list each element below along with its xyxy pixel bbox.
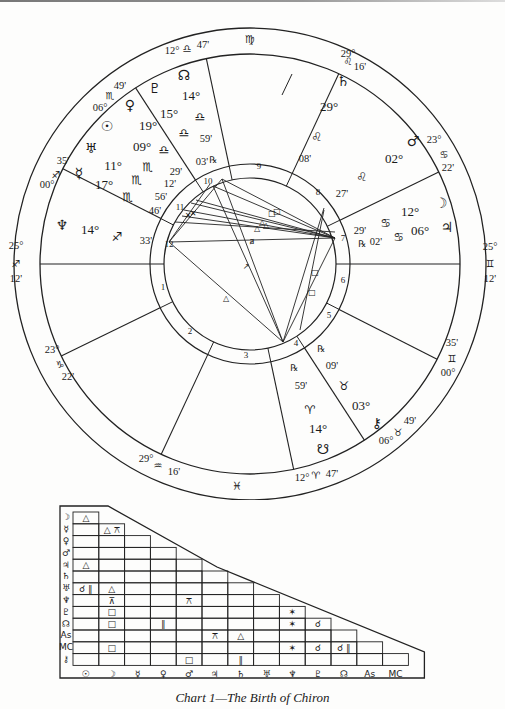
column-label-icon: ♆	[288, 669, 296, 679]
aspect-grid-cell	[176, 642, 202, 654]
aspect-grid-cell	[254, 595, 280, 607]
aspect-grid-cell	[150, 630, 176, 642]
aspect-grid-cell	[73, 547, 99, 559]
row-label-icon: ⚷	[63, 654, 70, 664]
aspect-grid-cell	[125, 583, 151, 595]
row-label-icon: ☽	[62, 512, 70, 522]
aspect-grid-cell	[202, 642, 228, 654]
aspect-symbol-icon: △	[237, 631, 244, 641]
aspect-grid-cell	[125, 595, 151, 607]
aspect-grid-cell	[125, 606, 151, 618]
aspect-symbol-icon: ✶	[289, 643, 297, 653]
row-label-icon: ♀	[63, 536, 70, 546]
aspect-grid-cell	[99, 654, 125, 666]
aspect-grid-cell	[254, 642, 280, 654]
aspect-grid-cell	[125, 547, 151, 559]
aspect-grid-cell	[73, 536, 99, 548]
column-label-icon: ♂	[185, 669, 193, 679]
row-label-icon: ♂	[62, 548, 70, 558]
column-label-icon: ♃	[211, 669, 219, 679]
aspect-grid-cell	[73, 618, 99, 630]
aspect-symbol-icon: ⚻	[212, 631, 218, 641]
aspect-grid-cell	[125, 630, 151, 642]
row-label-icon: MC	[59, 642, 73, 652]
aspect-grid-cell	[357, 642, 383, 654]
aspect-grid-cell	[254, 618, 280, 630]
aspect-grid-cell	[202, 654, 228, 666]
aspect-symbol-icon: ∥	[238, 655, 243, 665]
aspect-grid-cell	[99, 547, 125, 559]
aspect-grid-cell	[73, 642, 99, 654]
column-label-icon: ♅	[262, 669, 270, 679]
column-label-icon: ♇	[314, 669, 322, 679]
aspect-symbol-icon: □	[107, 619, 116, 629]
aspect-symbol-icon: □	[107, 607, 116, 617]
aspect-symbol-icon: ∥	[161, 619, 166, 629]
aspect-grid-cell	[254, 630, 280, 642]
aspect-grid-cell	[99, 559, 125, 571]
aspect-grid-cell	[228, 583, 254, 595]
aspect-grid-cell	[383, 654, 409, 666]
aspect-grid-cell	[150, 595, 176, 607]
row-label-icon: ♅	[62, 583, 70, 593]
aspect-grid-cell	[279, 630, 305, 642]
column-label-icon: ☿	[135, 669, 141, 679]
row-label-icon: ☿	[63, 524, 69, 534]
aspect-symbol-icon: △ ⚻	[104, 525, 120, 535]
aspect-symbol-icon: ✶	[289, 607, 297, 617]
aspect-grid-cell	[176, 618, 202, 630]
aspect-grid-cell	[150, 559, 176, 571]
aspect-grid-cell	[228, 606, 254, 618]
row-label-icon: ♃	[62, 560, 70, 570]
aspect-grid-cell	[125, 642, 151, 654]
aspect-grid-cell	[99, 571, 125, 583]
aspect-symbol-icon: ⊼	[108, 596, 115, 606]
column-label-icon: ☊	[340, 669, 348, 679]
column-label-icon: ♀	[160, 669, 167, 679]
aspect-grid-cell	[150, 547, 176, 559]
aspect-grid-cell	[202, 583, 228, 595]
aspect-symbol-icon: ☌	[315, 619, 321, 629]
aspect-symbol-icon: □	[107, 643, 116, 653]
aspect-grid-cell	[150, 583, 176, 595]
column-label-icon: As	[364, 669, 375, 679]
aspect-symbol-icon: ☌	[315, 643, 321, 653]
aspect-grid-cell	[254, 654, 280, 666]
aspect-grid-cell	[305, 654, 331, 666]
aspect-grid-cell	[73, 654, 99, 666]
aspect-grid-cell	[73, 630, 99, 642]
aspect-grid-cell	[73, 524, 99, 536]
aspect-grid-cell	[176, 559, 202, 571]
aspect-grid-cell	[125, 559, 151, 571]
aspect-grid-cell	[176, 583, 202, 595]
aspect-grid-cell	[150, 654, 176, 666]
aspect-symbol-icon: ✶	[289, 619, 297, 629]
aspect-grid-cell	[331, 630, 357, 642]
row-label-icon: ☊	[62, 619, 70, 629]
aspect-grid-cell	[150, 606, 176, 618]
aspect-grid-cell	[176, 571, 202, 583]
aspect-grid-cell	[125, 571, 151, 583]
aspect-symbol-icon: ☌ ∥	[337, 643, 350, 653]
aspect-symbol-icon: △	[82, 513, 89, 523]
aspect-grid-cell	[73, 595, 99, 607]
aspect-grid-cell	[125, 536, 151, 548]
row-label-icon: ♇	[62, 607, 70, 617]
aspect-grid-cell	[99, 630, 125, 642]
column-label-icon: ☽	[108, 669, 116, 679]
aspect-symbol-icon: □	[185, 655, 194, 665]
aspect-grid-cell	[202, 595, 228, 607]
aspect-grid: ☽☿♀♂♃♄♅♆♇☊AsMC⚷☉☽☿♀♂♃♄♅♆♇☊AsMC△△ ⚻△☌ ∥△⊼…	[0, 0, 505, 709]
aspect-grid-cell	[279, 654, 305, 666]
aspect-grid-cell	[228, 595, 254, 607]
aspect-grid-cell	[228, 642, 254, 654]
aspect-symbol-icon: △	[108, 584, 115, 594]
chart-caption: Chart 1—The Birth of Chiron	[0, 690, 505, 706]
aspect-grid-cell	[73, 571, 99, 583]
column-label-icon: ♄	[237, 669, 245, 679]
aspect-symbol-icon: △	[82, 560, 89, 570]
aspect-grid-cell	[228, 618, 254, 630]
aspect-symbol-icon: ☌ ∥	[79, 584, 92, 594]
aspect-grid-cell	[125, 618, 151, 630]
aspect-grid-cell	[202, 571, 228, 583]
